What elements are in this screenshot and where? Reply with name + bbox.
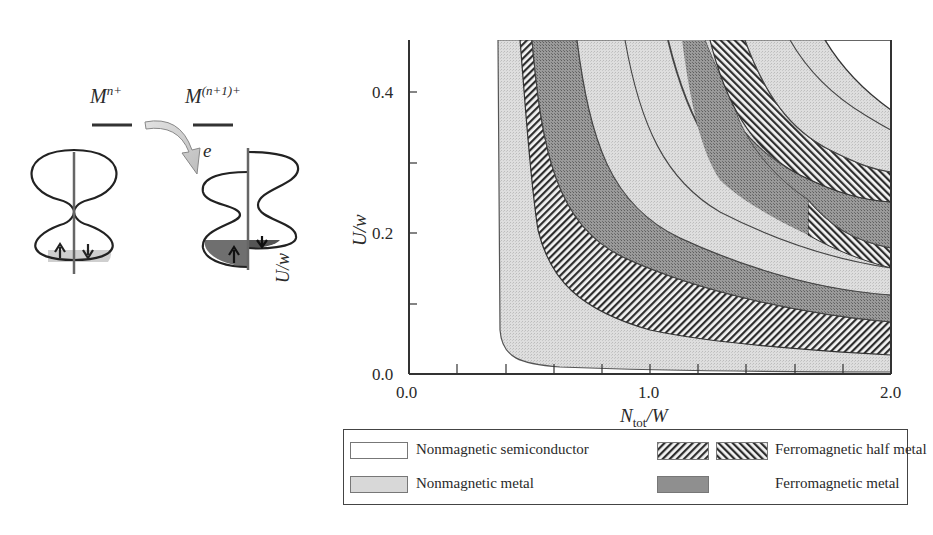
x-tick-1: 1.0 — [638, 383, 659, 402]
legend-swatch-nm-metal — [350, 476, 408, 493]
legend-label-fm-half-metal: Ferromagnetic half metal — [775, 441, 927, 458]
phase-regions — [409, 40, 891, 374]
legend-label-nm-metal: Nonmagnetic metal — [416, 475, 534, 492]
legend: Nonmagnetic semiconductor Ferromagnetic … — [343, 429, 908, 505]
x-tick-2: 2.0 — [880, 383, 901, 402]
x-axis-label: Ntot/W — [619, 405, 670, 430]
y-tick-2: 0.4 — [372, 83, 394, 102]
legend-label-fm-metal: Ferromagnetic metal — [775, 475, 900, 492]
legend-swatch-nm-semiconductor — [350, 442, 408, 459]
x-tick-0: 0.0 — [396, 383, 417, 402]
y-tick-1: 0.2 — [372, 224, 393, 243]
legend-swatch-fm-half-metal-fwd — [716, 442, 768, 460]
legend-swatch-fm-half-metal-back — [657, 442, 709, 460]
phase-diagram-chart: 0.0 0.2 0.4 0.0 1.0 2.0 U/w Ntot/W — [0, 0, 933, 430]
legend-swatch-fm-metal — [657, 476, 709, 493]
y-tick-0: 0.0 — [372, 365, 393, 384]
legend-label-nm-semiconductor: Nonmagnetic semiconductor — [416, 441, 589, 458]
y-axis-label: U/w — [349, 214, 370, 246]
